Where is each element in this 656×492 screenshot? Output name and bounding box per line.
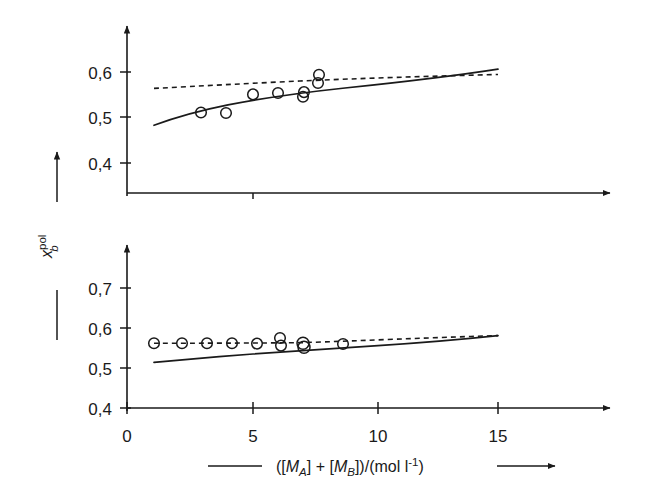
y-axis-label-group: xpolb xyxy=(36,152,60,340)
upper-ytick-label-06: 0,6 xyxy=(88,64,112,83)
upper-panel: 0,6 0,5 0,4 xyxy=(88,26,610,199)
upper-datapoint xyxy=(248,89,259,100)
upper-solid-curve xyxy=(154,69,498,125)
x-label-close: ])/(mol l xyxy=(355,458,408,475)
x-label-m1: M xyxy=(286,458,300,475)
y-axis-label: xpolb xyxy=(36,235,60,259)
x-label-exp: -1 xyxy=(408,456,418,468)
upper-ytick-label-04: 0,4 xyxy=(88,155,112,174)
xtick-label-0: 0 xyxy=(122,427,131,446)
upper-ytick-label-05: 0,5 xyxy=(88,109,112,128)
xtick-label-10: 10 xyxy=(369,427,388,446)
xtick-label-5: 5 xyxy=(248,427,257,446)
lower-panel: 0,7 0,6 0,5 0,4 0 5 10 15 xyxy=(88,245,610,446)
x-label-open: ([ xyxy=(276,458,286,475)
upper-datapoint xyxy=(221,108,232,119)
lower-ytick-label-07: 0,7 xyxy=(88,280,112,299)
lower-ytick-label-04: 0,4 xyxy=(88,400,112,419)
lower-datapoint xyxy=(276,340,287,351)
lower-dashed-curve xyxy=(154,336,498,344)
figure-container: 0,6 0,5 0,4 xyxy=(0,0,656,492)
x-axis-label: ([MA] + [MB])/(mol l-1) xyxy=(276,456,424,478)
y-axis-label-sup: pol xyxy=(36,235,48,250)
chart-canvas: 0,6 0,5 0,4 xyxy=(0,0,656,492)
x-axis-label-group: ([MA] + [MB])/(mol l-1) xyxy=(208,456,555,478)
x-label-m2: M xyxy=(334,458,348,475)
x-label-mid: ] + [ xyxy=(307,458,335,475)
x-label-tail: ) xyxy=(418,458,423,475)
xtick-label-15: 15 xyxy=(489,427,508,446)
x-label-m1-sub: A xyxy=(298,466,307,478)
lower-ytick-label-06: 0,6 xyxy=(88,320,112,339)
y-axis-label-sub: b xyxy=(48,245,60,252)
lower-ytick-label-05: 0,5 xyxy=(88,360,112,379)
